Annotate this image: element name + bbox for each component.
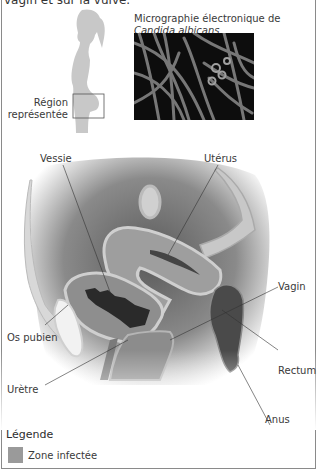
micrograph-image (134, 33, 254, 120)
label-vessie: Vessie (40, 153, 72, 165)
label-anus: Anus (265, 414, 290, 426)
figure-title-cut: vagin et sur la vulve. (4, 0, 130, 6)
ovary (140, 186, 160, 218)
region-label-line1: Région (34, 97, 68, 109)
label-os-pubien: Os pubien (7, 332, 58, 344)
legend-swatch-infected (8, 447, 23, 463)
body-silhouette (60, 8, 120, 133)
legend-title: Légende (6, 429, 53, 441)
label-vagin: Vagin (278, 281, 306, 293)
pelvic-anatomy-illustration (0, 140, 321, 430)
region-label-line2: représentée (8, 109, 68, 121)
label-uretre: Urètre (7, 384, 38, 396)
legend-label-infected: Zone infectée (28, 450, 97, 462)
silhouette-shape (71, 9, 104, 133)
label-rectum: Rectum (278, 365, 316, 377)
label-uterus: Utérus (204, 153, 237, 165)
micrograph-caption-line1: Micrographie électronique de (134, 13, 280, 25)
